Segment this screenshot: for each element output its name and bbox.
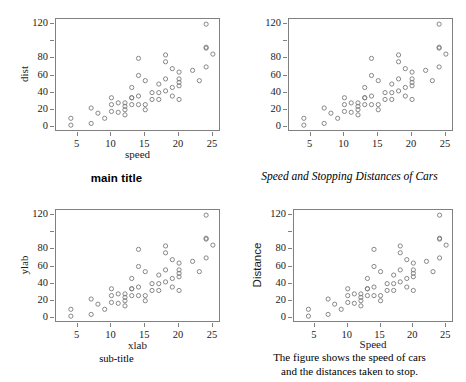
panel-top-right: 020406080120 510152025 Speed and Stoppin… — [233, 0, 466, 191]
y-tick-label: 0 — [15, 312, 48, 323]
data-point — [136, 94, 140, 98]
data-point — [103, 116, 107, 120]
data-point — [150, 97, 154, 101]
data-point — [89, 121, 93, 125]
x-tick-label: 5 — [295, 139, 325, 150]
data-point — [306, 314, 310, 318]
y-tick-mark — [288, 317, 292, 318]
y-tick-mark — [288, 300, 292, 301]
data-point — [130, 85, 134, 89]
data-point — [177, 288, 181, 292]
data-point — [322, 121, 326, 125]
scatter-points-bottom-left — [56, 210, 221, 323]
data-point — [123, 304, 127, 308]
x-tick-mark — [343, 132, 344, 136]
y-tick-mark — [50, 40, 54, 41]
y-tick-mark — [288, 214, 292, 215]
data-point — [163, 89, 167, 93]
data-point — [130, 103, 134, 107]
data-point — [403, 94, 407, 98]
x-tick-mark — [445, 323, 446, 327]
y-tick-label: 120 — [253, 209, 286, 220]
data-point — [170, 258, 174, 262]
data-point — [130, 294, 134, 298]
main-title-top-left: main title — [0, 172, 233, 184]
data-point — [150, 91, 154, 95]
data-point — [329, 111, 333, 115]
data-point — [392, 273, 396, 277]
data-point — [177, 261, 181, 265]
x-tick-mark — [77, 323, 78, 327]
data-point — [411, 261, 415, 265]
y-tick-mark — [50, 109, 54, 110]
data-point — [163, 280, 167, 284]
data-point — [372, 285, 376, 289]
y-tick-label: 60 — [248, 70, 281, 81]
data-point — [109, 103, 113, 107]
data-point — [390, 97, 394, 101]
y-tick-mark — [288, 248, 292, 249]
sub-title-bottom-left: sub-title — [0, 353, 233, 364]
x-tick-label: 10 — [328, 139, 358, 150]
data-point — [372, 264, 376, 268]
data-point — [322, 106, 326, 110]
main-title-top-right: Speed and Stopping Distances of Cars — [233, 170, 466, 182]
data-point — [326, 312, 330, 316]
y-tick-mark — [283, 40, 287, 41]
data-point — [369, 94, 373, 98]
plot-area-bottom-right — [294, 210, 452, 321]
scatter-points-bottom-right — [294, 210, 454, 323]
data-point — [398, 251, 402, 255]
data-point — [130, 96, 134, 100]
data-point — [157, 282, 161, 286]
plot-box-top-right — [288, 18, 453, 131]
data-point — [157, 97, 161, 101]
y-tick-mark — [50, 75, 54, 76]
x-tick-label: 25 — [430, 139, 460, 150]
data-point — [437, 22, 441, 26]
x-tick-mark — [380, 323, 381, 327]
x-axis-label-top-left: speed — [55, 148, 220, 160]
x-tick-mark — [314, 323, 315, 327]
x-tick-mark — [144, 323, 145, 327]
data-point — [116, 110, 120, 114]
data-point — [116, 301, 120, 305]
data-point — [396, 77, 400, 81]
y-tick-mark — [283, 126, 287, 127]
data-point — [339, 307, 343, 311]
figure-canvas: 020406080120 510152025 speed dist main t… — [0, 0, 466, 382]
y-tick-label: 80 — [248, 52, 281, 63]
x-tick-mark — [212, 323, 213, 327]
x-tick-mark — [144, 132, 145, 136]
data-point — [96, 302, 100, 306]
data-point — [376, 103, 380, 107]
plot-area-top-right — [289, 19, 452, 130]
data-point — [96, 111, 100, 115]
data-point — [103, 307, 107, 311]
data-point — [163, 268, 167, 272]
y-tick-label: 120 — [248, 18, 281, 29]
data-point — [69, 123, 73, 127]
x-tick-mark — [212, 132, 213, 136]
plot-box-bottom-right — [293, 209, 453, 322]
x-tick-mark — [347, 323, 348, 327]
x-tick-mark — [310, 132, 311, 136]
data-point — [431, 270, 435, 274]
data-point — [342, 109, 346, 113]
data-point — [403, 67, 407, 71]
y-axis-label-bottom-right: Distance — [251, 235, 263, 295]
y-tick-label: 120 — [15, 209, 48, 220]
data-point — [211, 52, 215, 56]
data-point — [136, 294, 140, 298]
data-point — [136, 264, 140, 268]
data-point — [396, 53, 400, 57]
data-point — [157, 288, 161, 292]
data-point — [410, 70, 414, 74]
data-point — [143, 299, 147, 303]
y-tick-mark — [283, 92, 287, 93]
data-point — [383, 97, 387, 101]
y-tick-mark — [50, 248, 54, 249]
data-point — [136, 247, 140, 251]
data-point — [396, 60, 400, 64]
data-point — [306, 307, 310, 311]
